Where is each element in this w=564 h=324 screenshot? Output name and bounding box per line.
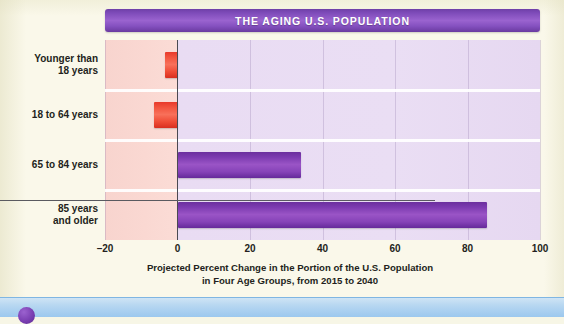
gridline-100 — [540, 40, 541, 240]
caption-line-1: Projected Percent Change in the Portion … — [60, 262, 520, 275]
y-axis-label-3: 85 yearsand older — [0, 203, 98, 228]
y-axis-label-1: 18 to 64 years — [0, 109, 98, 122]
x-tick-label-100: 100 — [532, 243, 549, 254]
x-tick-label-40: 40 — [317, 243, 328, 254]
chart-caption: Projected Percent Change in the Portion … — [60, 262, 520, 287]
x-tick-label-20: 20 — [244, 243, 255, 254]
bullet-circle-icon — [18, 307, 35, 324]
chart-title-banner: THE AGING U.S. POPULATION — [105, 9, 540, 32]
y-axis-label-2: 65 to 84 years — [0, 159, 98, 172]
x-axis-tick-labels: –20020406080100 — [105, 243, 540, 257]
bar-3 — [178, 202, 488, 228]
x-tick-label-0: 0 — [175, 243, 181, 254]
y-axis-label-line: 18 to 64 years — [0, 109, 98, 122]
y-axis-label-line: 18 years — [0, 65, 98, 78]
y-axis-label-0: Younger than18 years — [0, 53, 98, 78]
row-separator — [105, 189, 540, 192]
chart-title: THE AGING U.S. POPULATION — [235, 15, 410, 27]
zero-axis-line — [177, 40, 178, 240]
caption-line-2: in Four Age Groups, from 2015 to 2040 — [60, 275, 520, 288]
row-separator — [105, 89, 540, 92]
y-axis-label-line: 65 to 84 years — [0, 159, 98, 172]
bar-2 — [178, 152, 301, 178]
row-separator — [105, 139, 540, 142]
bar-1 — [154, 102, 178, 128]
x-tick-label--20: –20 — [97, 243, 114, 254]
bar-0 — [165, 52, 178, 78]
y-axis-labels: Younger than18 years18 to 64 years65 to … — [0, 40, 98, 240]
plot-area — [105, 40, 540, 240]
x-axis-line — [0, 200, 435, 201]
x-tick-label-60: 60 — [389, 243, 400, 254]
x-tick-label-80: 80 — [462, 243, 473, 254]
y-axis-label-line: 85 years — [0, 203, 98, 216]
y-axis-label-line: and older — [0, 215, 98, 228]
y-axis-label-line: Younger than — [0, 53, 98, 66]
bottom-strip — [0, 297, 564, 317]
